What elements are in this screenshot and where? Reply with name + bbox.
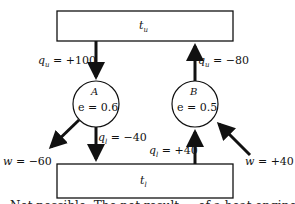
w-a-value: = −60 bbox=[12, 155, 51, 168]
qu-a-value: = +100 bbox=[50, 54, 96, 67]
arrow-w-a bbox=[51, 120, 79, 147]
w-b-symbol: w bbox=[245, 155, 254, 168]
upper-reservoir-label: tu bbox=[139, 20, 148, 36]
label-w-a: w = −60 bbox=[3, 156, 52, 168]
lower-reservoir-label: tl bbox=[140, 175, 147, 191]
ql-a-symbol: q bbox=[98, 131, 105, 144]
ql-b-symbol: q bbox=[149, 144, 156, 157]
lower-reservoir-subscript: l bbox=[144, 181, 146, 189]
engine-a-name: A bbox=[91, 86, 98, 98]
ql-b-value: = +40 bbox=[158, 144, 197, 157]
qu-a-symbol: q bbox=[38, 54, 45, 67]
qu-b-symbol: q bbox=[198, 54, 205, 67]
label-w-b: w = +40 bbox=[245, 156, 294, 168]
qu-b-value: = −80 bbox=[210, 54, 249, 67]
upper-reservoir-subscript: u bbox=[143, 26, 148, 34]
engine-a-efficiency: e = 0.6 bbox=[78, 102, 118, 114]
w-b-value: = +40 bbox=[254, 155, 293, 168]
label-ql-a: ql = −40 bbox=[98, 132, 147, 148]
arrow-w-b bbox=[219, 124, 250, 155]
label-qu-a: qu = +100 bbox=[38, 55, 96, 71]
engine-b-efficiency: e = 0.5 bbox=[177, 102, 217, 114]
heat-engine-diagram: tu tl A e = 0.6 B e = 0.5 qu = +100 qu =… bbox=[0, 0, 295, 204]
engine-b-name: B bbox=[190, 86, 197, 98]
label-qu-b: qu = −80 bbox=[198, 55, 249, 71]
ql-a-value: = −40 bbox=[107, 131, 146, 144]
label-ql-b: ql = +40 bbox=[149, 145, 198, 161]
w-a-symbol: w bbox=[3, 155, 12, 168]
partial-caption: Not possible. The net result ... of a he… bbox=[10, 199, 295, 204]
